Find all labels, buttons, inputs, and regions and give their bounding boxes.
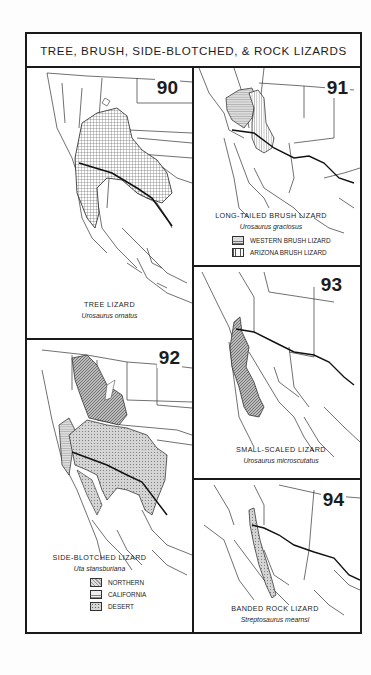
scientific-name-94: Streptosaurus mearnsi [194,616,358,623]
plate-title-bar: TREE, BRUSH, SIDE-BLOTCHED, & ROCK LIZAR… [27,34,360,68]
scientific-name-90: Urosaurus ornatus [27,312,192,319]
common-name-93: SMALL-SCALED LIZARD [198,445,360,454]
legend-label: CALIFORNIA [108,591,146,598]
scientific-name-92: Uta stansburiana [27,565,182,572]
map-caption-94: BANDED ROCK LIZARD Streptosaurus mearnsi [194,604,358,623]
legend-label: WESTERN BRUSH LIZARD [250,237,331,244]
legend-item-western-brush-lizard: WESTERN BRUSH LIZARD [232,236,331,245]
common-name-94: BANDED ROCK LIZARD [194,604,358,613]
left-row-divider [27,338,192,340]
column-divider [192,68,194,632]
map-caption-93: SMALL-SCALED LIZARD Urosaurus microscuta… [198,445,360,464]
map-number-91: 91 [325,78,350,98]
stipple-swatch-icon [90,602,102,611]
legend-item-desert: DESERT [90,602,146,611]
map-panel-93: 93 SMALL-SCALED LIZARD Urosaurus microsc… [194,267,360,478]
map-panel-91: 91 LONG-TAILED BRUSH LIZARD Urosaurus gr… [194,68,360,265]
map-number-94: 94 [321,490,346,510]
right-row-divider-1 [194,265,360,267]
map-caption-90: TREE LIZARD Urosaurus ornatus [27,300,192,319]
range-map-90 [27,68,192,338]
scientific-name-91: Urosaurus graciosus [194,223,354,230]
map-caption-91: LONG-TAILED BRUSH LIZARD Urosaurus graci… [194,211,354,230]
map-number-90: 90 [155,78,180,98]
right-row-divider-2 [194,478,360,480]
map-caption-92: SIDE-BLOTCHED LIZARD Uta stansburiana [27,553,182,572]
legend-label: DESERT [108,603,134,610]
common-name-92: SIDE-BLOTCHED LIZARD [27,553,182,562]
map-panel-90: 90 TREE LIZARD Urosaurus ornatus [27,68,192,338]
scientific-name-93: Urosaurus microscutatus [198,457,360,464]
legend-91: WESTERN BRUSH LIZARD ARIZONA BRUSH LIZAR… [232,236,331,260]
map-panel-92: 92 SIDE-BLOTCHED LIZARD Uta stansburiana… [27,340,192,632]
legend-item-california: CALIFORNIA [90,590,146,599]
legend-item-northern: NORTHERN [90,578,146,587]
map-number-93: 93 [319,275,344,295]
common-name-90: TREE LIZARD [27,300,192,309]
horizontal-hatch-swatch-icon [90,590,102,599]
legend-item-arizona-brush-lizard: ARIZONA BRUSH LIZARD [232,248,331,257]
common-name-91: LONG-TAILED BRUSH LIZARD [194,211,354,220]
legend-label: NORTHERN [108,579,144,586]
map-panel-94: 94 BANDED ROCK LIZARD Streptosaurus mear… [194,480,360,632]
legend-92: NORTHERN CALIFORNIA DESERT [90,578,146,614]
horizontal-hatch-swatch-icon [232,236,244,245]
map-number-92: 92 [157,348,182,368]
plate-title: TREE, BRUSH, SIDE-BLOTCHED, & ROCK LIZAR… [40,44,347,57]
legend-label: ARIZONA BRUSH LIZARD [250,249,327,256]
plate-frame: TREE, BRUSH, SIDE-BLOTCHED, & ROCK LIZAR… [25,32,362,634]
vertical-hatch-swatch-icon [232,248,244,257]
diagonal-hatch-swatch-icon [90,578,102,587]
